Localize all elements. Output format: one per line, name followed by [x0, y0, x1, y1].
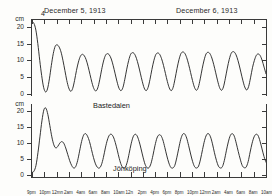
y-axis-tick-right: [262, 44, 267, 45]
time-axis-label: 12n: [126, 190, 134, 195]
top-axis-tick: [143, 19, 144, 24]
y-axis-tick-right: [262, 77, 267, 78]
time-axis-tick: [266, 172, 267, 178]
top-axis-tick: [241, 19, 242, 24]
y-axis-tick-right: [262, 27, 267, 28]
time-axis-label: 6am: [236, 190, 245, 195]
time-axis-label: 4pm: [150, 190, 159, 195]
time-axis-tick: [155, 172, 156, 178]
time-axis-label: 2am: [212, 190, 221, 195]
time-axis-label: 2am: [64, 190, 73, 195]
top-axis-tick: [94, 19, 95, 24]
y-axis-unit: cm: [2, 100, 24, 107]
panel-jonkoping: [31, 104, 267, 178]
time-axis-tick: [44, 172, 45, 178]
y-axis-tick-right: [262, 94, 267, 95]
y-axis-tick: [27, 127, 32, 128]
top-axis-tick: [32, 19, 33, 24]
time-axis-tick: [204, 172, 205, 178]
top-axis-tick: [118, 19, 119, 24]
top-axis-tick: [266, 19, 267, 24]
y-axis-tick-right: [262, 143, 267, 144]
chart-container: December 5, 1913 December 6, 1913 4 cm20…: [0, 0, 272, 196]
time-axis-tick: [192, 172, 193, 178]
top-axis-tick: [44, 19, 45, 24]
time-axis-label: 10am: [113, 190, 124, 195]
peak-annotation: 4: [41, 10, 45, 17]
time-axis-tick: [118, 172, 119, 178]
time-axis-tick: [81, 172, 82, 178]
y-axis-tick-label: 0: [2, 90, 24, 97]
y-axis-tick: [27, 159, 32, 160]
time-axis-label: 2pm: [138, 190, 147, 195]
y-axis-tick-right: [262, 60, 267, 61]
time-axis-tick: [229, 172, 230, 178]
y-axis-tick: [27, 27, 32, 28]
time-axis-tick: [131, 172, 132, 178]
time-axis-label: 6pm: [162, 190, 171, 195]
time-axis: 9pm10pm12mn2am4am6am8am10am12n2pm4pm6pm8…: [0, 178, 272, 196]
top-axis-tick: [180, 19, 181, 24]
time-axis-label: 10pm: [39, 190, 50, 195]
time-axis-tick: [94, 172, 95, 178]
y-axis-tick-label: 10: [2, 139, 24, 146]
time-axis-label: 8pm: [175, 190, 184, 195]
time-axis-label: 10am: [261, 190, 272, 195]
y-axis-tick-label: 10: [2, 56, 24, 63]
time-axis-tick: [241, 172, 242, 178]
y-axis-tick-label: 5: [2, 155, 24, 162]
time-axis-label: 6am: [89, 190, 98, 195]
time-axis-label: 8am: [101, 190, 110, 195]
y-axis-tick-label: 0: [2, 171, 24, 178]
panel-border-right-lower: [266, 104, 267, 178]
date-label-left: December 5, 1913: [44, 6, 106, 15]
time-axis-tick: [143, 172, 144, 178]
top-axis-tick: [131, 19, 132, 24]
time-axis-label: 4am: [224, 190, 233, 195]
y-axis-tick: [27, 111, 32, 112]
y-axis-tick-right: [262, 111, 267, 112]
y-axis-tick-label: 20: [2, 107, 24, 114]
time-axis-label: 12mn: [52, 190, 63, 195]
y-axis-tick-label: 20: [2, 23, 24, 30]
time-axis-label: 9pm: [27, 190, 36, 195]
time-axis-label: 4am: [76, 190, 85, 195]
top-axis-tick: [155, 19, 156, 24]
time-axis-tick: [167, 172, 168, 178]
time-axis-label: 12mn: [199, 190, 210, 195]
y-axis-tick: [27, 94, 32, 95]
y-axis-tick: [27, 60, 32, 61]
panel-border-left: [31, 19, 32, 96]
top-axis-tick: [57, 19, 58, 24]
time-axis-tick: [106, 172, 107, 178]
series-label-bastedalen: Bastedalen: [93, 101, 130, 110]
y-axis-unit: cm: [2, 15, 24, 22]
time-axis-tick: [57, 172, 58, 178]
top-axis-tick: [204, 19, 205, 24]
top-axis-tick: [217, 19, 218, 24]
top-axis-tick: [192, 19, 193, 24]
top-axis-tick: [106, 19, 107, 24]
top-axis-tick: [167, 19, 168, 24]
trace-jonkoping: [31, 104, 267, 178]
time-axis-label: 8am: [249, 190, 258, 195]
y-axis-tick-right: [262, 127, 267, 128]
panel-bastedalen: [31, 19, 267, 96]
top-axis-tick: [69, 19, 70, 24]
y-axis-tick-label: 5: [2, 73, 24, 80]
time-axis-tick: [180, 172, 181, 178]
y-axis-tick: [27, 77, 32, 78]
time-axis-label: 10pm: [187, 190, 198, 195]
y-axis-tick-right: [262, 159, 267, 160]
y-axis-tick: [27, 44, 32, 45]
y-axis-tick-label: 15: [2, 40, 24, 47]
panel-border-left-lower: [31, 104, 32, 178]
top-axis-tick: [229, 19, 230, 24]
top-axis-tick: [81, 19, 82, 24]
time-axis-tick: [32, 172, 33, 178]
trace-bastedalen: [31, 19, 267, 96]
time-axis-tick: [69, 172, 70, 178]
y-axis-tick-label: 15: [2, 123, 24, 130]
date-label-right: December 6, 1913: [176, 6, 238, 15]
y-axis-tick: [27, 143, 32, 144]
